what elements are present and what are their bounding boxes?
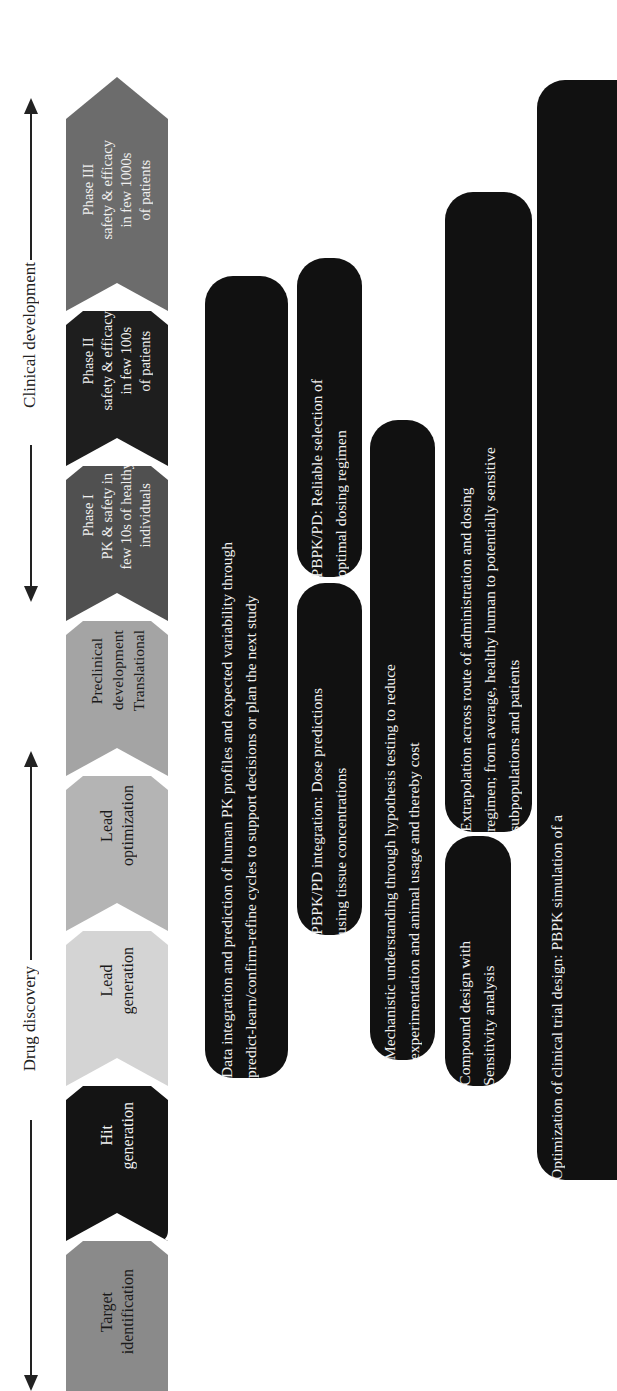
stage-label: Phase III safety & efficacy in few 1000s… (79, 140, 155, 240)
drug-discovery-label: Drug discovery (20, 966, 40, 1071)
drug-discovery-arrow-head-down (24, 1375, 38, 1391)
stage-label: Hit generation (96, 1102, 138, 1170)
clinical-development-line-lower (30, 445, 32, 587)
stage-label: Phase I PK & safety in few 10s of health… (79, 462, 155, 570)
application-data-integration: Data integration and prediction of human… (205, 276, 288, 1078)
application-text: Compound design with Sensitivity analysi… (445, 913, 509, 1086)
application-pbpk-pd-dosing-regimen: PBPK/PD: Reliable selection of optimal d… (297, 258, 362, 577)
application-text: Mechanistic understanding through hypoth… (370, 646, 434, 1060)
application-clinical-trial-optimization: Optimization of clinical trial design: P… (537, 80, 617, 1180)
stage-label: Preclinical development Translational (86, 630, 149, 711)
application-text: Optimization of clinical trial design: P… (537, 160, 577, 1180)
clinical-development-label: Clinical development (20, 262, 40, 408)
clinical-development-arrow-head-down (24, 586, 38, 602)
application-text: PBPK/PD integration: Dose predictions us… (297, 672, 361, 935)
stage-label: Lead optimization (96, 785, 138, 866)
stage-label: Target identification (96, 1269, 138, 1354)
application-mechanistic-understanding: Mechanistic understanding through hypoth… (370, 420, 435, 1060)
stage-label: Phase II safety & efficacy in few 100s o… (79, 311, 155, 411)
application-text: Data integration and prediction of human… (205, 524, 273, 1078)
application-pbpk-pd-dose-predictions: PBPK/PD integration: Dose predictions us… (297, 583, 362, 935)
application-extrapolation: Extrapolation across route of administra… (445, 192, 532, 832)
clinical-development-line-upper (30, 112, 32, 260)
stage-phase-3: Phase III safety & efficacy in few 1000s… (66, 77, 168, 311)
drug-discovery-line-lower (30, 1120, 32, 1375)
drug-discovery-line-upper (30, 765, 32, 960)
application-compound-design: Compound design with Sensitivity analysi… (445, 836, 511, 1086)
stage-label: Lead generation (96, 947, 138, 1015)
application-text: Extrapolation across route of administra… (445, 429, 535, 832)
application-text: PBPK/PD: Reliable selection of optimal d… (297, 365, 361, 577)
